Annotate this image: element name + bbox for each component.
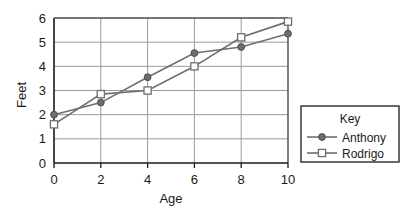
x-tick-label-10: 10 (281, 172, 295, 187)
chart-root: 0123456 0246810 Age Feet Key Anthony Rod… (0, 0, 409, 209)
legend-title: Key (340, 112, 361, 126)
data-point-rodrigo-0 (50, 121, 57, 128)
data-point-rodrigo-8 (238, 34, 245, 41)
x-tick-label-2: 2 (97, 172, 104, 187)
y-tick-label-4: 4 (39, 59, 46, 74)
data-point-anthony-0 (51, 111, 58, 118)
legend-label-rodrigo: Rodrigo (342, 147, 384, 161)
y-tick-label-2: 2 (39, 107, 46, 122)
y-tick-label-1: 1 (39, 131, 46, 146)
x-tick-label-4: 4 (144, 172, 151, 187)
data-point-anthony-2 (97, 99, 104, 106)
data-point-anthony-6 (191, 50, 198, 57)
line-chart: 0123456 0246810 Age Feet Key Anthony Rod… (0, 0, 409, 209)
legend-label-anthony: Anthony (342, 131, 386, 145)
x-tick-label-0: 0 (50, 172, 57, 187)
data-point-rodrigo-10 (284, 18, 291, 25)
legend: Key Anthony Rodrigo (301, 106, 399, 162)
filled-circle-marker-icon (319, 134, 326, 141)
chart-background (0, 0, 409, 209)
y-tick-label-3: 3 (39, 83, 46, 98)
x-tick-label-6: 6 (191, 172, 198, 187)
y-tick-label-0: 0 (39, 156, 46, 171)
data-point-anthony-10 (285, 30, 292, 37)
data-point-rodrigo-2 (97, 91, 104, 98)
y-tick-label-5: 5 (39, 35, 46, 50)
data-point-rodrigo-4 (144, 87, 151, 94)
y-axis-title: Feet (14, 82, 29, 108)
open-square-marker-icon (318, 149, 325, 156)
data-point-anthony-4 (144, 74, 151, 81)
data-point-anthony-8 (238, 44, 245, 51)
x-tick-label-8: 8 (238, 172, 245, 187)
y-tick-label-6: 6 (39, 11, 46, 26)
x-axis-title: Age (159, 191, 182, 206)
data-point-rodrigo-6 (191, 63, 198, 70)
